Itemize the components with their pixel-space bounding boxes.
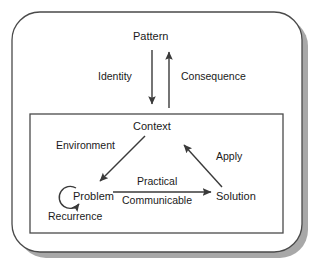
node-problem-label: Problem xyxy=(73,190,114,202)
node-solution-label: Solution xyxy=(216,190,256,202)
node-context-label: Context xyxy=(133,120,171,132)
edge-label-identity: Identity xyxy=(98,70,132,82)
node-solution: Solution xyxy=(216,190,256,202)
edge-identity-text: Identity xyxy=(98,70,132,82)
edge-label-apply: Apply xyxy=(216,150,242,162)
edge-environment-text: Environment xyxy=(56,139,115,151)
node-context: Context xyxy=(133,120,171,132)
edge-recurrence-text: Recurrence xyxy=(48,210,102,222)
node-pattern: Pattern xyxy=(133,30,168,42)
edge-label-recurrence: Recurrence xyxy=(48,210,102,222)
diagram-canvas: Pattern Context Problem Solution Identit… xyxy=(0,0,314,268)
edge-apply-text: Apply xyxy=(216,150,242,162)
edge-practical-text: Practical xyxy=(137,175,177,187)
edge-consequence-text: Consequence xyxy=(181,70,246,82)
edge-label-practical: Practical xyxy=(137,175,177,187)
edge-label-communicable: Communicable xyxy=(122,194,192,206)
edge-label-consequence: Consequence xyxy=(181,70,246,82)
edge-communicable-text: Communicable xyxy=(122,194,192,206)
node-problem: Problem xyxy=(73,190,114,202)
node-pattern-label: Pattern xyxy=(133,30,168,42)
edge-label-environment: Environment xyxy=(56,139,115,151)
